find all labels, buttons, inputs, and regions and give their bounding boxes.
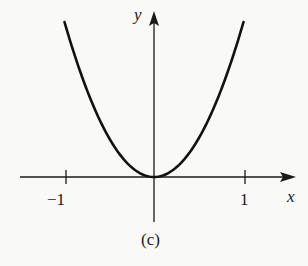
figure-caption: (c) [141,231,160,248]
parabola-plot [0,0,308,266]
x-axis-label: x [287,188,295,205]
figure: y x −1 1 (c) [0,0,308,266]
y-axis-label: y [134,6,142,23]
tick-label-pos1: 1 [240,191,249,208]
tick-label-neg1: −1 [47,191,65,208]
